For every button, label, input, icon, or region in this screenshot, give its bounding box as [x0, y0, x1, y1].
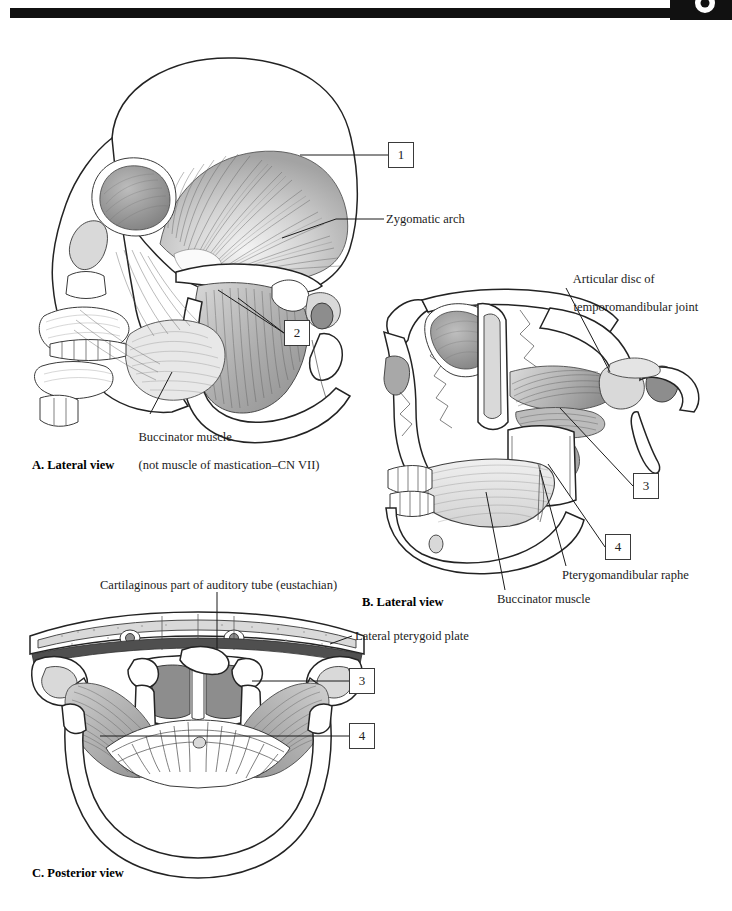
buccinator-muscle-label-a: Buccinator muscle (not muscle of mastica… [126, 416, 319, 486]
buccinator-line-1: Buccinator muscle [139, 430, 232, 444]
panel-b-caption: B. Lateral view [362, 595, 444, 610]
callout-4-panel-b[interactable]: 4 [605, 534, 631, 560]
callout-3-value-c: 3 [359, 673, 366, 689]
callout-3-panel-b[interactable]: 3 [633, 473, 659, 499]
buccinator-line-2: (not muscle of mastication–CN VII) [139, 458, 320, 472]
page-root: 1 2 Zygomatic arch Buccinator muscle (no… [0, 0, 732, 911]
callout-1[interactable]: 1 [388, 142, 414, 168]
page-tab-dot-icon [692, 0, 718, 16]
callout-1-value: 1 [398, 147, 405, 163]
page-tab-marker [670, 0, 732, 20]
callout-3-panel-c[interactable]: 3 [349, 668, 375, 694]
callout-4-value-c: 4 [359, 728, 366, 744]
callout-4-value-b: 4 [615, 539, 622, 555]
callout-3-value-b: 3 [643, 478, 650, 494]
panel-a-illustration [20, 48, 390, 448]
header-rule [10, 8, 710, 18]
articular-disc-label: Articular disc of temporomandibular join… [561, 258, 698, 328]
articular-disc-line-2: temporomandibular joint [574, 300, 699, 314]
panel-c-illustration [22, 602, 372, 880]
callout-4-panel-c[interactable]: 4 [349, 723, 375, 749]
panel-c-caption: C. Posterior view [32, 866, 124, 881]
lateral-pterygoid-plate-label: Lateral pterygoid plate [355, 629, 469, 643]
panel-a-caption: A. Lateral view [32, 458, 114, 473]
callout-2[interactable]: 2 [284, 320, 310, 346]
callout-2-value: 2 [294, 325, 301, 341]
pterygomandibular-raphe-label: Pterygomandibular raphe [562, 568, 689, 582]
zygomatic-arch-label: Zygomatic arch [386, 212, 465, 226]
auditory-tube-label: Cartilaginous part of auditory tube (eus… [100, 578, 337, 592]
buccinator-muscle-label-b: Buccinator muscle [497, 592, 590, 606]
articular-disc-line-1: Articular disc of [573, 272, 655, 286]
